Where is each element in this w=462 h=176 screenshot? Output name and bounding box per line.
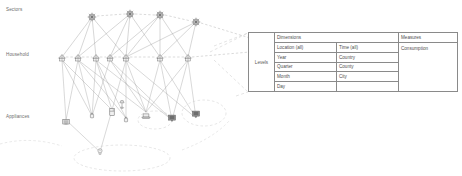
group-ellipse-tails bbox=[0, 120, 230, 150]
household-node[interactable] bbox=[157, 55, 164, 61]
edges-household-appliance bbox=[62, 60, 196, 152]
level-cell-empty[interactable] bbox=[337, 82, 398, 91]
hierarchy-location-column: Location (all) Year Quarter Month Day bbox=[275, 43, 337, 91]
household-node[interactable] bbox=[93, 55, 100, 61]
tier-label-appliances: Appliances bbox=[6, 114, 29, 119]
measures-header-text: Measures bbox=[401, 35, 421, 40]
edges-sector-household bbox=[62, 14, 196, 57]
group-ellipses bbox=[74, 100, 226, 171]
measures-header-cell: Measures bbox=[399, 33, 457, 43]
laptop-icon[interactable] bbox=[142, 114, 150, 119]
levels-label: Levels bbox=[255, 60, 268, 65]
levels-column: Levels bbox=[249, 33, 275, 91]
appliance-nodes bbox=[63, 101, 200, 155]
household-node[interactable] bbox=[123, 55, 130, 61]
sector-node[interactable] bbox=[126, 10, 135, 19]
household-node[interactable] bbox=[75, 55, 82, 61]
level-cell[interactable]: Year bbox=[275, 53, 336, 63]
group-ellipse-bottom bbox=[74, 145, 170, 171]
level-cell[interactable]: Day bbox=[275, 82, 336, 91]
tier-label-sectors: Sectors bbox=[6, 7, 22, 12]
level-cell[interactable]: County bbox=[337, 63, 398, 73]
dimensions-header-cell: Dimensions bbox=[275, 33, 398, 43]
bulb-icon[interactable] bbox=[98, 149, 102, 155]
edges-household-chain bbox=[66, 52, 250, 57]
level-cell[interactable]: Location (all) bbox=[275, 43, 336, 53]
dimensions-column: Dimensions Location (all) Year Quarter M… bbox=[275, 33, 399, 91]
projection-lines bbox=[210, 33, 248, 96]
dimensions-header-text: Dimensions bbox=[277, 35, 301, 40]
monitor-icon[interactable] bbox=[193, 111, 200, 117]
household-node[interactable] bbox=[59, 55, 66, 61]
measures-column: Measures Consumption bbox=[399, 33, 457, 91]
lamp-icon[interactable] bbox=[120, 101, 124, 109]
measure-cell-consumption[interactable]: Consumption bbox=[399, 43, 457, 53]
fridge-icon[interactable] bbox=[110, 109, 114, 116]
level-cell[interactable]: City bbox=[337, 72, 398, 82]
sector-node[interactable] bbox=[156, 11, 165, 20]
household-node[interactable] bbox=[185, 55, 192, 61]
hierarchy-time-column: Time (all) Country County City bbox=[337, 43, 398, 91]
household-nodes bbox=[59, 55, 192, 61]
edges-sector-chain bbox=[97, 14, 250, 38]
monitor-icon[interactable] bbox=[169, 115, 176, 121]
sector-node[interactable] bbox=[88, 13, 97, 22]
level-cell[interactable]: Country bbox=[337, 53, 398, 63]
measures-filler bbox=[399, 53, 457, 91]
sector-nodes bbox=[88, 10, 201, 27]
cube-schema-table: Levels Dimensions Location (all) Year Qu… bbox=[248, 32, 458, 92]
tv-icon[interactable] bbox=[63, 119, 69, 124]
diagram-canvas: Sectors Household Appliances Levels Dime… bbox=[0, 0, 462, 176]
measure-label: Consumption bbox=[401, 46, 428, 51]
level-cell[interactable]: Month bbox=[275, 72, 336, 82]
sector-node[interactable] bbox=[192, 18, 201, 27]
household-node[interactable] bbox=[107, 55, 114, 61]
tier-label-household: Household bbox=[6, 52, 29, 57]
level-cell[interactable]: Time (all) bbox=[337, 43, 398, 53]
group-ellipse-appliances bbox=[182, 100, 226, 126]
level-cell[interactable]: Quarter bbox=[275, 63, 336, 73]
